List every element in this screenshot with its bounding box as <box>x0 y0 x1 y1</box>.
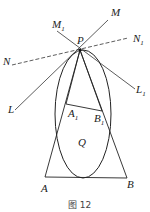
label-q: Q <box>78 136 86 148</box>
label-n: N <box>2 55 11 67</box>
label-n1: N1 <box>132 32 144 47</box>
label-p: P <box>76 34 84 46</box>
label-l1: L1 <box>135 83 146 98</box>
line-m1-l1 <box>57 31 135 89</box>
label-b: B <box>127 178 134 190</box>
label-l: L <box>7 103 14 115</box>
line-m-l <box>15 20 108 110</box>
label-m1: M1 <box>51 18 65 33</box>
label-a: A <box>40 182 48 194</box>
label-m: M <box>110 6 121 18</box>
point-p <box>79 49 82 52</box>
label-a1: A1 <box>67 107 78 122</box>
figure-caption: 图 12 <box>68 200 91 210</box>
ellipse-q <box>55 50 111 178</box>
label-b1: B1 <box>94 112 104 127</box>
segment-pb1 <box>80 50 102 111</box>
line-n-n1 <box>12 38 128 65</box>
geometry-diagram: P M M1 N N1 L L1 A1 B1 Q A B 图 12 <box>0 0 150 212</box>
segment-ab <box>45 177 127 178</box>
